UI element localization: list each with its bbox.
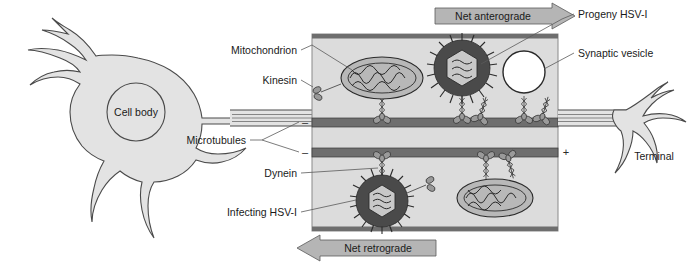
axon-magnified-panel: – + – + — [302, 33, 569, 234]
axon-shaft-proximal — [230, 110, 312, 126]
axonal-transport-figure: Cell body – + – + — [0, 0, 697, 270]
svg-text:Mitochondrion: Mitochondrion — [231, 44, 297, 56]
svg-text:Microtubules: Microtubules — [186, 134, 246, 146]
svg-text:Infecting HSV-I: Infecting HSV-I — [227, 206, 297, 218]
cell-body-label: Cell body — [114, 106, 159, 118]
label-kinesin: Kinesin — [263, 74, 313, 87]
synaptic-vesicle-shape — [503, 51, 545, 93]
mitochondrion-upper — [341, 57, 423, 99]
svg-text:Dynein: Dynein — [264, 167, 297, 179]
banner-net-retrograde: Net retrograde — [297, 235, 436, 261]
polarity-plus-lower: + — [563, 146, 569, 158]
axon-distal-and-terminal: Terminal — [558, 82, 686, 173]
svg-text:Progeny HSV-I: Progeny HSV-I — [578, 8, 647, 20]
polarity-minus-lower: – — [302, 146, 309, 158]
svg-text:Synaptic vesicle: Synaptic vesicle — [578, 47, 653, 59]
banner-anterograde-label: Net anterograde — [455, 10, 531, 22]
terminal-label: Terminal — [634, 150, 674, 162]
figure-canvas: Cell body – + – + — [0, 0, 697, 270]
banner-retrograde-label: Net retrograde — [344, 242, 412, 254]
svg-text:Kinesin: Kinesin — [263, 74, 298, 86]
polarity-minus-upper: – — [302, 116, 309, 128]
microtubule-lower — [312, 148, 558, 157]
label-synaptic-vesicle: Synaptic vesicle — [544, 47, 653, 69]
banner-net-anterograde: Net anterograde — [435, 3, 575, 29]
mitochondrion-lower — [457, 179, 533, 217]
